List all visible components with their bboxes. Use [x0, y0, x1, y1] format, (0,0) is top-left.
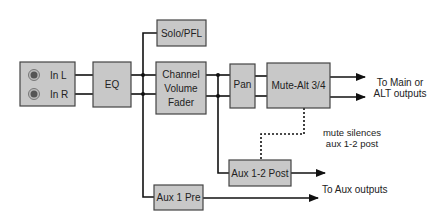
svg-text:To Main or: To Main or [377, 77, 424, 88]
input-block: In L In R [20, 62, 75, 106]
input-left-label: In L [50, 70, 67, 81]
svg-text:Solo/PFL: Solo/PFL [161, 28, 203, 39]
jack-right-icon [29, 89, 40, 100]
svg-text:Aux 1 Pre: Aux 1 Pre [157, 192, 201, 203]
svg-text:Fader: Fader [168, 97, 195, 108]
svg-text:Mute-Alt 3/4: Mute-Alt 3/4 [272, 80, 326, 91]
svg-text:Channel: Channel [162, 69, 199, 80]
svg-text:EQ: EQ [105, 79, 120, 90]
signal-flow-diagram: In L In R EQ Solo/PFL Channel Volume Fad… [0, 0, 447, 220]
mute-alt-block: Mute-Alt 3/4 [267, 63, 330, 108]
channel-fader-block: Channel Volume Fader [156, 62, 206, 114]
svg-text:Pan: Pan [234, 79, 252, 90]
pan-block: Pan [230, 64, 255, 108]
svg-text:ALT outputs: ALT outputs [374, 88, 427, 99]
aux-pre-block: Aux 1 Pre [154, 185, 203, 210]
svg-text:mute silences: mute silences [323, 127, 381, 138]
wires [75, 33, 365, 198]
svg-text:aux 1-2 post: aux 1-2 post [326, 138, 379, 149]
eq-block: EQ [93, 62, 131, 107]
svg-text:Volume: Volume [164, 83, 198, 94]
input-right-label: In R [50, 89, 68, 100]
aux-output-label: To Aux outputs [322, 184, 388, 195]
solo-pfl-block: Solo/PFL [157, 20, 206, 46]
aux-post-block: Aux 1-2 Post [229, 160, 291, 186]
main-output-label: To Main or ALT outputs [374, 77, 427, 99]
jack-left-icon [29, 70, 40, 81]
svg-text:Aux 1-2 Post: Aux 1-2 Post [231, 168, 288, 179]
mute-note: mute silences aux 1-2 post [323, 127, 381, 149]
